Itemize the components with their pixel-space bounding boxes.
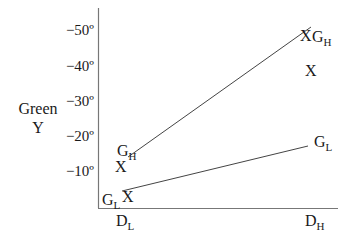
x-tick-dh: DH bbox=[305, 212, 325, 232]
y-axis-label-line1: Green bbox=[18, 100, 57, 117]
x-marker-low-upper: X bbox=[115, 158, 127, 175]
x-marker-low-lower: X bbox=[122, 188, 134, 205]
series-label-gl-high: GL bbox=[314, 133, 333, 153]
y-axis-label-line2: Y bbox=[32, 119, 44, 136]
y-tick-10: −10º bbox=[66, 163, 94, 179]
y-tick-40: −40º bbox=[66, 58, 94, 74]
x-marker-high-lower: X bbox=[305, 62, 317, 79]
series-label-gh-high: GH bbox=[312, 28, 332, 48]
y-tick-20: −20º bbox=[66, 128, 94, 144]
y-tick-50: −50º bbox=[66, 22, 94, 38]
x-marker-high-upper: X bbox=[300, 27, 312, 44]
diagram: −50º −40º −30º −20º −10º Green Y GH X GL… bbox=[0, 0, 354, 234]
x-tick-dl: DL bbox=[116, 212, 135, 232]
series-line-gl bbox=[122, 146, 308, 191]
series-line-gh bbox=[128, 27, 311, 157]
y-tick-30: −30º bbox=[66, 93, 94, 109]
